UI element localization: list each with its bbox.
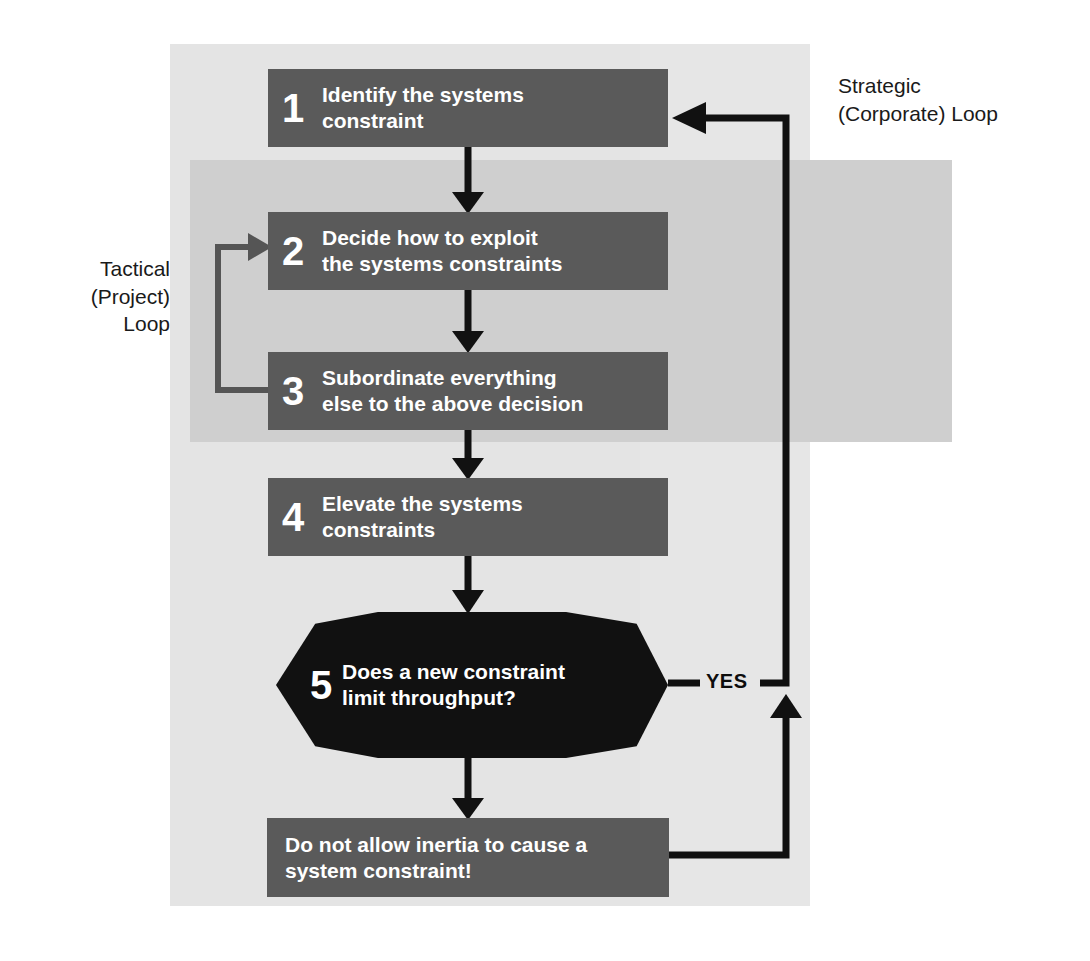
yes-branch-label: YES: [706, 670, 748, 693]
step-box-4[interactable]: 4 Elevate the systems constraints: [268, 478, 668, 556]
decision-text: Does a new constraint limit throughput?: [342, 659, 565, 710]
step-text-3: Subordinate everything else to the above…: [322, 365, 583, 416]
arrow-step2-to-step3: [452, 290, 484, 353]
diagram-canvas: 1 Identify the systems constraint 2 Deci…: [0, 0, 1090, 961]
decision-number: 5: [276, 665, 342, 705]
step-number-1: 1: [268, 88, 322, 128]
step-box-1[interactable]: 1 Identify the systems constraint: [268, 69, 668, 147]
step-box-3[interactable]: 3 Subordinate everything else to the abo…: [268, 352, 668, 430]
step-box-2[interactable]: 2 Decide how to exploit the systems cons…: [268, 212, 668, 290]
tactical-loop-label: Tactical (Project) Loop: [20, 255, 170, 338]
arrow-decision-to-final-box: [452, 756, 484, 820]
step-text-4: Elevate the systems constraints: [322, 491, 523, 542]
final-warning-text: Do not allow inertia to cause a system c…: [267, 832, 587, 883]
step-text-2: Decide how to exploit the systems constr…: [322, 225, 562, 276]
step-number-2: 2: [268, 231, 322, 271]
step-text-1: Identify the systems constraint: [322, 82, 524, 133]
arrow-step4-to-decision: [452, 556, 484, 614]
step-number-3: 3: [268, 371, 322, 411]
strategic-loop-label: Strategic (Corporate) Loop: [838, 72, 1078, 127]
yes-branch-connector: [668, 102, 786, 683]
arrow-step1-to-step2: [452, 147, 484, 214]
final-box-to-strategic-loop: [669, 694, 802, 855]
final-warning-box[interactable]: Do not allow inertia to cause a system c…: [267, 818, 669, 897]
arrow-step3-to-step4: [452, 430, 484, 480]
tactical-loop-arrow: [218, 233, 272, 390]
decision-node-5[interactable]: 5 Does a new constraint limit throughput…: [276, 612, 668, 758]
step-number-4: 4: [268, 497, 322, 537]
